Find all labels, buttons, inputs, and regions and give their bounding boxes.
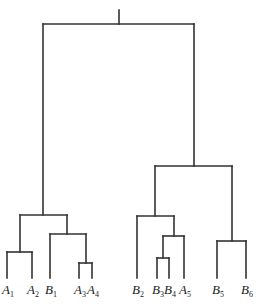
leaf-label: B2 <box>132 282 144 299</box>
leaf-label: A4 <box>86 282 99 299</box>
leaf-label: B1 <box>45 282 57 299</box>
leaf-labels: A1A2B1A3A4B2B3B4A5B5B6 <box>1 282 253 299</box>
leaf-label: B6 <box>241 282 253 299</box>
leaf-label: B4 <box>164 282 176 299</box>
leaf-label: B5 <box>212 282 224 299</box>
leaf-label: B3 <box>152 282 164 299</box>
dendrogram-branches <box>7 10 246 278</box>
leaf-label: A5 <box>178 282 191 299</box>
leaf-label: A3 <box>73 282 86 299</box>
leaf-label: A1 <box>1 282 14 299</box>
dendrogram: A1A2B1A3A4B2B3B4A5B5B6 <box>0 0 265 308</box>
leaf-label: A2 <box>26 282 39 299</box>
